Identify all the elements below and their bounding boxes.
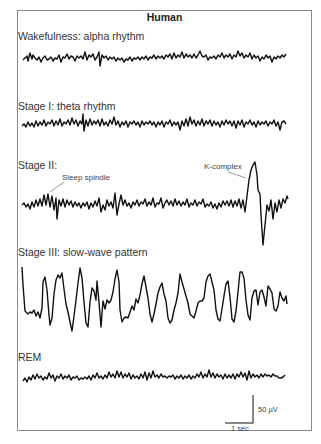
trace-rem: [23, 370, 285, 382]
trace-stage-1: [22, 114, 286, 131]
trace-stage-2: [22, 162, 288, 245]
trace-stage-3: [22, 267, 287, 331]
trace-wakefulness: [23, 51, 286, 66]
scale-bar: [225, 395, 253, 423]
leader-sleep-spindle: [50, 182, 64, 192]
eeg-traces: [0, 0, 321, 444]
leader-k-complex: [228, 172, 246, 178]
